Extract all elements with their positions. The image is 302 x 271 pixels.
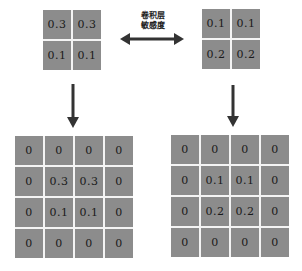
double-arrow-icon [120, 33, 184, 45]
matrix-cell: 0 [201, 228, 229, 257]
matrix-cell: 0 [171, 166, 199, 195]
matrix-cell: 0 [105, 167, 133, 196]
matrix-cell: 0 [231, 228, 259, 257]
matrix-cell: 0 [75, 229, 103, 258]
matrix-cell: 0 [261, 135, 289, 164]
matrix-cell: 0.3 [75, 167, 103, 196]
matrix-cell: 0.1 [231, 166, 259, 195]
matrix-cell: 0 [105, 136, 133, 165]
matrix-cell: 0.1 [73, 41, 101, 70]
matrix-cell: 0 [15, 229, 43, 258]
left-down-arrow-icon [67, 84, 79, 128]
matrix-cell: 0.2 [232, 40, 260, 69]
matrix-cell: 0 [105, 229, 133, 258]
matrix-cell: 0.1 [201, 166, 229, 195]
matrix-cell: 0.1 [45, 198, 73, 227]
top-right-matrix: 0.1 0.1 0.2 0.2 [202, 9, 260, 69]
relation-label: 卷积层 敏感度 [127, 11, 179, 31]
matrix-cell: 0 [171, 197, 199, 226]
matrix-cell: 0.1 [232, 9, 260, 38]
bottom-left-matrix: 0 0 0 0 0 0.3 0.3 0 0 0.1 0.1 0 0 0 0 0 [15, 136, 133, 258]
matrix-cell: 0 [261, 166, 289, 195]
relation-label-line2: 敏感度 [127, 21, 179, 31]
matrix-cell: 0.2 [231, 197, 259, 226]
matrix-cell: 0 [75, 136, 103, 165]
matrix-cell: 0.2 [202, 40, 230, 69]
matrix-cell: 0 [201, 135, 229, 164]
matrix-cell: 0 [261, 228, 289, 257]
matrix-cell: 0 [261, 197, 289, 226]
matrix-cell: 0 [15, 136, 43, 165]
matrix-cell: 0 [15, 198, 43, 227]
matrix-cell: 0.1 [202, 9, 230, 38]
matrix-cell: 0.3 [73, 10, 101, 39]
matrix-cell: 0 [231, 135, 259, 164]
relation-label-line1: 卷积层 [127, 11, 179, 21]
matrix-cell: 0.1 [75, 198, 103, 227]
matrix-cell: 0 [45, 229, 73, 258]
right-down-arrow-icon [227, 85, 239, 127]
bottom-right-matrix: 0 0 0 0 0 0.1 0.1 0 0 0.2 0.2 0 0 0 0 0 [171, 135, 289, 257]
top-left-matrix: 0.3 0.3 0.1 0.1 [43, 10, 101, 70]
matrix-cell: 0 [105, 198, 133, 227]
matrix-cell: 0.2 [201, 197, 229, 226]
matrix-cell: 0.3 [45, 167, 73, 196]
matrix-cell: 0 [171, 228, 199, 257]
matrix-cell: 0 [171, 135, 199, 164]
matrix-cell: 0.3 [43, 10, 71, 39]
matrix-cell: 0 [45, 136, 73, 165]
matrix-cell: 0 [15, 167, 43, 196]
matrix-cell: 0.1 [43, 41, 71, 70]
